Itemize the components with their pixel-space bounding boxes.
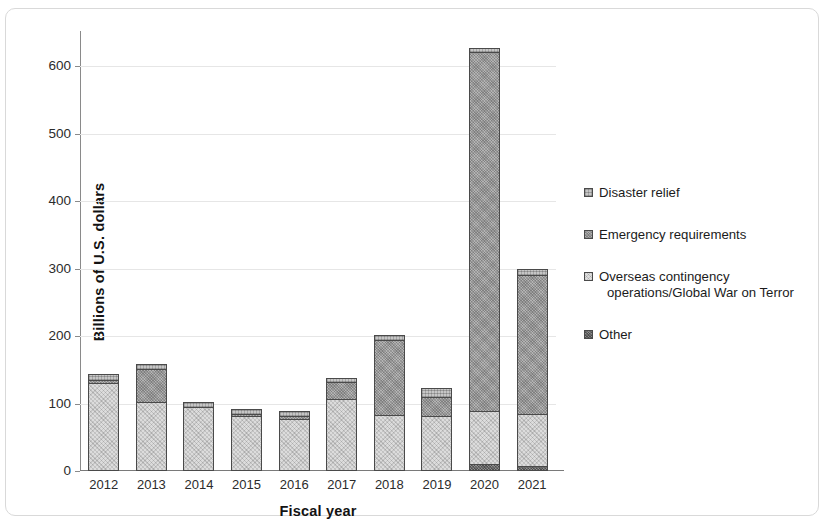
y-tick-label: 400 bbox=[48, 194, 71, 208]
legend-item[interactable]: Other bbox=[584, 327, 814, 343]
x-tick-label: 2014 bbox=[175, 477, 223, 499]
y-tick-mark bbox=[75, 471, 80, 472]
legend-swatch bbox=[584, 188, 593, 197]
bar-segment[interactable] bbox=[232, 417, 261, 470]
stacked-bar[interactable] bbox=[183, 402, 214, 471]
bar-slot bbox=[223, 39, 271, 471]
bar-slot bbox=[175, 39, 223, 471]
bar-segment[interactable] bbox=[184, 408, 213, 470]
stacked-bar[interactable] bbox=[421, 388, 452, 471]
bar-slot bbox=[461, 39, 509, 471]
bar-slot bbox=[366, 39, 414, 471]
bar-segment[interactable] bbox=[280, 420, 309, 470]
plot-region: 0100200300400500600 bbox=[80, 39, 556, 471]
bar-segment[interactable] bbox=[327, 400, 356, 470]
bar-segment[interactable] bbox=[422, 398, 451, 417]
legend-item[interactable]: Overseas contingencyoperations/Global Wa… bbox=[584, 269, 814, 301]
bar-segment[interactable] bbox=[470, 465, 499, 470]
bar-segment[interactable] bbox=[470, 53, 499, 412]
stacked-bar[interactable] bbox=[88, 374, 119, 471]
y-tick-label: 600 bbox=[48, 59, 71, 73]
bar-slot bbox=[80, 39, 128, 471]
x-tick-label: 2012 bbox=[80, 477, 128, 499]
x-tick-label: 2017 bbox=[318, 477, 366, 499]
bar-slot bbox=[508, 39, 556, 471]
legend-swatch bbox=[584, 330, 593, 339]
chart-legend: Disaster reliefEmergency requirementsOve… bbox=[584, 185, 814, 343]
x-tick-label: 2016 bbox=[270, 477, 318, 499]
stacked-bar[interactable] bbox=[136, 364, 167, 471]
y-tick-label: 100 bbox=[48, 397, 71, 411]
bar-segment[interactable] bbox=[470, 412, 499, 466]
bar-segment[interactable] bbox=[137, 370, 166, 403]
x-tick-label: 2020 bbox=[461, 477, 509, 499]
legend-label: Overseas contingencyoperations/Global Wa… bbox=[599, 269, 794, 301]
bar-segment[interactable] bbox=[89, 384, 118, 470]
stacked-bar[interactable] bbox=[517, 269, 548, 471]
bar-slot bbox=[413, 39, 461, 471]
bar-segment[interactable] bbox=[375, 341, 404, 416]
plot-area: 0100200300400500600 bbox=[80, 39, 556, 471]
bar-segment[interactable] bbox=[518, 276, 547, 415]
bar-segment[interactable] bbox=[422, 417, 451, 470]
x-axis-tick-labels: 2012201320142015201620172018201920202021 bbox=[80, 477, 556, 499]
bar-slot bbox=[128, 39, 176, 471]
x-tick-label: 2015 bbox=[223, 477, 271, 499]
legend-label: Emergency requirements bbox=[599, 227, 746, 243]
stacked-bar[interactable] bbox=[374, 335, 405, 471]
bar-series-group bbox=[80, 39, 556, 471]
y-tick-label: 500 bbox=[48, 127, 71, 141]
stacked-bar[interactable] bbox=[279, 411, 310, 471]
bar-segment[interactable] bbox=[422, 389, 451, 398]
bar-segment[interactable] bbox=[518, 467, 547, 470]
x-tick-label: 2013 bbox=[128, 477, 176, 499]
legend-item[interactable]: Emergency requirements bbox=[584, 227, 814, 243]
bar-segment[interactable] bbox=[327, 383, 356, 400]
stacked-bar[interactable] bbox=[326, 378, 357, 471]
y-tick-label: 300 bbox=[48, 262, 71, 276]
x-axis-title: Fiscal year bbox=[80, 503, 556, 519]
legend-swatch bbox=[584, 272, 593, 281]
legend-swatch bbox=[584, 230, 593, 239]
bar-slot bbox=[270, 39, 318, 471]
bar-segment[interactable] bbox=[518, 415, 547, 467]
stacked-bar[interactable] bbox=[469, 48, 500, 471]
y-tick-label: 0 bbox=[63, 464, 71, 478]
y-tick-label: 200 bbox=[48, 329, 71, 343]
legend-label: Other bbox=[599, 327, 632, 343]
bar-segment[interactable] bbox=[375, 416, 404, 470]
legend-label: Disaster relief bbox=[599, 185, 680, 201]
stacked-bar[interactable] bbox=[231, 409, 262, 471]
bar-segment[interactable] bbox=[137, 403, 166, 470]
chart-frame: Billions of U.S. dollars 010020030040050… bbox=[5, 8, 819, 516]
x-tick-label: 2019 bbox=[413, 477, 461, 499]
legend-item[interactable]: Disaster relief bbox=[584, 185, 814, 201]
bar-slot bbox=[318, 39, 366, 471]
x-tick-label: 2021 bbox=[508, 477, 556, 499]
x-tick-label: 2018 bbox=[366, 477, 414, 499]
